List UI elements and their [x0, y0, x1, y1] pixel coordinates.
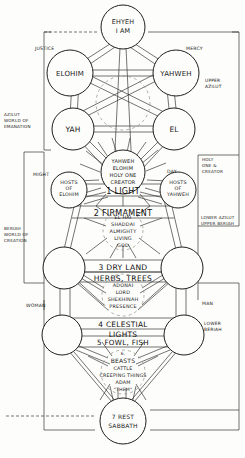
svg-text:GOD: GOD: [117, 242, 129, 248]
node-hokhmah-label: YAHWEH: [159, 70, 192, 78]
svg-text:WORLD OF: WORLD OF: [4, 232, 29, 237]
node-el-label: EL: [169, 125, 179, 134]
svg-text:SABBATH: SABBATH: [108, 422, 137, 429]
node-binah-label: ELOHIM: [56, 70, 84, 78]
svg-text:EMANATION: EMANATION: [4, 124, 31, 129]
svg-text:UPPER BERIAH: UPPER BERIAH: [201, 221, 234, 226]
svg-text:AZILUT: AZILUT: [4, 112, 20, 117]
svg-text:EL: EL: [169, 125, 179, 134]
label-man: MAN: [202, 301, 213, 306]
tree-of-life-diagram: EHYEH I AM ELOHIM YAHWEH YAH EL YAHWEH E…: [0, 0, 245, 458]
node-tiferet-label: YAHWEH ELOHIM HOLY ONE CREATOR: [110, 158, 137, 185]
diagram-canvas: EHYEH I AM ELOHIM YAHWEH YAH EL YAHWEH E…: [0, 0, 245, 458]
node-left-low-circle: [42, 315, 82, 355]
band-label-3-dry-land: 3 DRY LAND: [98, 263, 147, 272]
svg-text:BEASTS: BEASTS: [111, 357, 136, 364]
svg-text:HOLY: HOLY: [202, 157, 214, 162]
node-sabbath-circle: [100, 398, 146, 444]
svg-text:PRESENCE: PRESENCE: [109, 303, 136, 309]
svg-text:CREATOR: CREATOR: [110, 179, 135, 185]
band-label-1-light: 1 LIGHT: [106, 187, 140, 196]
svg-text:CREEPING THINGS: CREEPING THINGS: [99, 373, 146, 378]
svg-text:ALMIGHTY: ALMIGHTY: [110, 228, 137, 234]
svg-text:6.: 6.: [121, 351, 126, 356]
svg-text:CREATION: CREATION: [4, 238, 27, 243]
band-label-4-celestial: 4 CELESTIAL: [98, 320, 148, 329]
node-right-mid-circle: [161, 247, 203, 289]
svg-text:YAH: YAH: [64, 125, 80, 134]
label-upper-azilut: UPPER AZILUT: [205, 78, 222, 89]
svg-text:YAHWEH: YAHWEH: [166, 192, 189, 197]
svg-text:YAHWEH: YAHWEH: [159, 70, 192, 78]
svg-text:AZILUT: AZILUT: [205, 84, 222, 89]
label-day: DAY: [167, 169, 177, 174]
svg-text:OF: OF: [175, 186, 182, 191]
label-might: MIGHT: [33, 172, 49, 177]
label-woman: WOMAN: [26, 303, 46, 308]
svg-text:BERIAH: BERIAH: [204, 327, 222, 332]
svg-text:CATTLE: CATTLE: [114, 366, 133, 371]
svg-text:LIVING: LIVING: [114, 235, 132, 241]
band-label-5-fowl-fish: 5 FOWL, FISH: [97, 338, 149, 347]
svg-text:BERIAH: BERIAH: [4, 226, 21, 231]
node-left-mid-circle: [43, 247, 85, 289]
svg-text:OF: OF: [66, 186, 73, 191]
svg-text:UPPER: UPPER: [205, 78, 220, 83]
node-yah-label: YAH: [64, 125, 80, 134]
svg-text:LOWER AZILUT: LOWER AZILUT: [201, 215, 235, 220]
svg-text:7 REST: 7 REST: [112, 413, 134, 420]
svg-text:SHADDAI: SHADDAI: [111, 221, 135, 227]
svg-text:HOSTS: HOSTS: [169, 180, 186, 185]
svg-text:ELOHIM: ELOHIM: [56, 70, 84, 78]
svg-text:LOWER: LOWER: [204, 321, 221, 326]
svg-text:WORLD OF: WORLD OF: [4, 118, 29, 123]
band-label-3-herbs-trees: HERBS, TREES: [94, 274, 152, 283]
svg-text:ELOHIM: ELOHIM: [59, 192, 79, 197]
svg-text:I AM: I AM: [116, 27, 131, 35]
svg-text:LORD: LORD: [116, 289, 130, 295]
label-lower-azilut-upper-beriah: LOWER AZILUT UPPER BERIAH: [201, 215, 235, 226]
svg-text:SHEKHINAH: SHEKHINAH: [108, 296, 139, 302]
label-mercy: MERCY: [186, 46, 203, 51]
svg-text:"THEM": "THEM": [114, 387, 133, 392]
label-justice: JUSTICE: [34, 46, 54, 51]
svg-text:ONE &: ONE &: [202, 163, 217, 168]
svg-text:ELOHIM: ELOHIM: [113, 165, 133, 171]
node-right-low-circle: [164, 315, 204, 355]
band-label-2-firmament: 2 FIRMAMENT: [94, 209, 153, 218]
svg-text:EHYEH: EHYEH: [112, 18, 135, 26]
svg-text:ADAM: ADAM: [115, 380, 130, 385]
label-lower-beriah: LOWER BERIAH: [204, 321, 222, 332]
svg-text:YAHWEH: YAHWEH: [111, 158, 135, 164]
svg-text:CREATOR: CREATOR: [202, 169, 223, 174]
svg-text:HOSTS: HOSTS: [60, 180, 77, 185]
svg-text:HOLY ONE: HOLY ONE: [110, 172, 137, 178]
